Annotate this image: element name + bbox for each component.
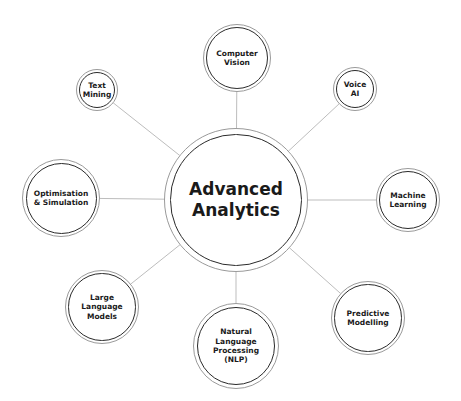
node-label: Large Language Models	[81, 293, 122, 321]
node-label: Machine Learning	[389, 191, 426, 210]
node-machine-learning: Machine Learning	[376, 168, 440, 232]
node-label: Computer Vision	[216, 49, 258, 68]
node-text-mining: Text Mining	[76, 69, 118, 111]
node-label: Predictive Modelling	[347, 309, 390, 328]
node-voice-ai: Voice AI	[333, 67, 377, 111]
center-node-advanced-analytics: Advanced Analytics	[164, 128, 308, 272]
node-predictive-modelling: Predictive Modelling	[331, 281, 405, 355]
node-label: Advanced Analytics	[189, 179, 283, 222]
node-large-language-models: Large Language Models	[65, 270, 139, 344]
node-label: Text Mining	[83, 81, 112, 100]
node-label: Voice AI	[344, 80, 367, 99]
node-nlp: Natural Language Processing (NLP)	[193, 303, 279, 389]
node-label: Natural Language Processing (NLP)	[213, 327, 259, 365]
node-computer-vision: Computer Vision	[203, 24, 271, 92]
node-label: Optimisation & Simulation	[34, 189, 89, 208]
node-optimisation-simulation: Optimisation & Simulation	[22, 159, 100, 237]
